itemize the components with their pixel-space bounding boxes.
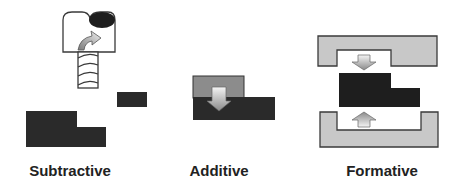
- down-arrow-icon: [352, 55, 376, 70]
- upper-die: [318, 36, 437, 66]
- workpiece: [26, 111, 106, 147]
- label-subtractive: Subtractive: [29, 162, 111, 179]
- label-formative: Formative: [346, 162, 418, 179]
- formative-illustration: [318, 36, 438, 147]
- label-additive: Additive: [189, 162, 248, 179]
- up-arrow-icon: [352, 112, 376, 127]
- lower-die: [320, 112, 438, 147]
- additive-illustration: [193, 76, 275, 120]
- base-part: [193, 97, 275, 120]
- formed-part: [339, 73, 420, 107]
- milling-tool-icon: [63, 12, 115, 88]
- subtractive-illustration: [26, 12, 147, 147]
- removed-chip: [117, 92, 147, 107]
